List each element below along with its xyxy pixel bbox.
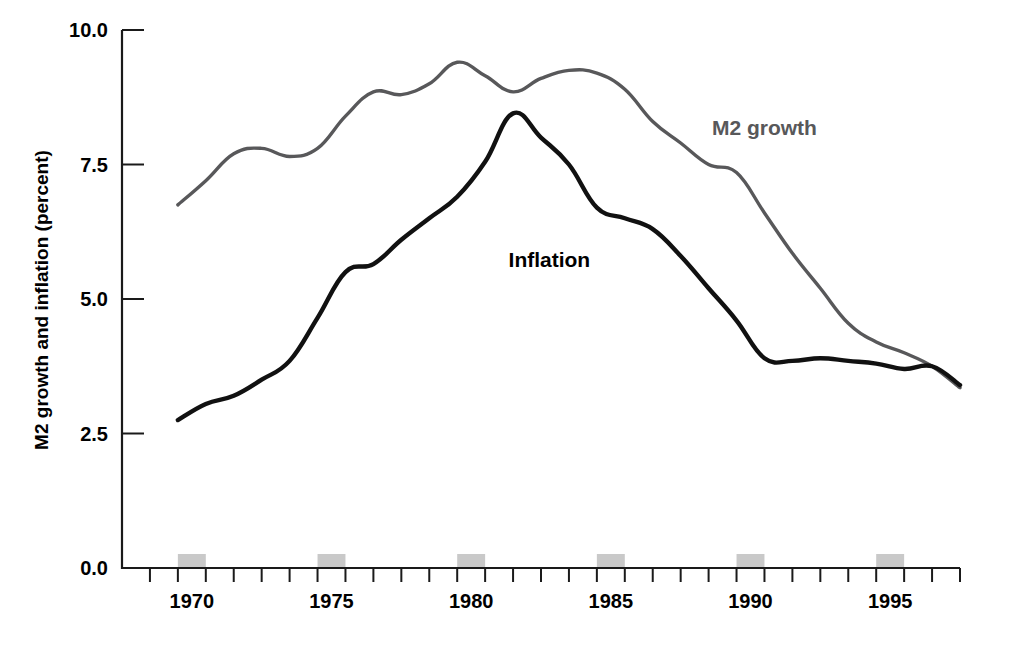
shaded-year-band [597,554,625,568]
x-tick-label: 1975 [309,590,354,612]
x-tick-label: 1990 [728,590,773,612]
x-tick-label: 1980 [449,590,494,612]
line-chart: 0.02.55.07.510.0 19701975198019851990199… [0,0,1019,647]
x-axis-ticks [150,568,960,582]
y-tick-label: 2.5 [80,423,108,445]
shaded-year-band [457,554,485,568]
shaded-year-band [737,554,765,568]
x-tick-label: 1995 [868,590,913,612]
y-tick-label: 7.5 [80,154,108,176]
chart-axes [122,30,960,568]
x-tick-label: 1985 [589,590,634,612]
shaded-year-bands [178,554,904,568]
chart-figure: 0.02.55.07.510.0 19701975198019851990199… [0,0,1019,647]
y-tick-label: 0.0 [80,557,108,579]
series-label-m2-growth: M2 growth [712,116,817,139]
series-label-inflation: Inflation [509,248,591,271]
shaded-year-band [318,554,346,568]
y-axis-title: M2 growth and inflation (percent) [31,150,52,450]
series-line-m2-growth [178,62,960,388]
shaded-year-band [178,554,206,568]
x-axis-tick-labels: 197019751980198519901995 [170,590,913,612]
x-tick-label: 1970 [170,590,215,612]
y-axis-tick-labels: 0.02.55.07.510.0 [69,19,108,579]
y-tick-label: 5.0 [80,288,108,310]
y-tick-label: 10.0 [69,19,108,41]
y-axis-ticks [122,30,144,568]
shaded-year-band [876,554,904,568]
data-series-group [178,62,960,420]
axis-lines [122,30,960,568]
